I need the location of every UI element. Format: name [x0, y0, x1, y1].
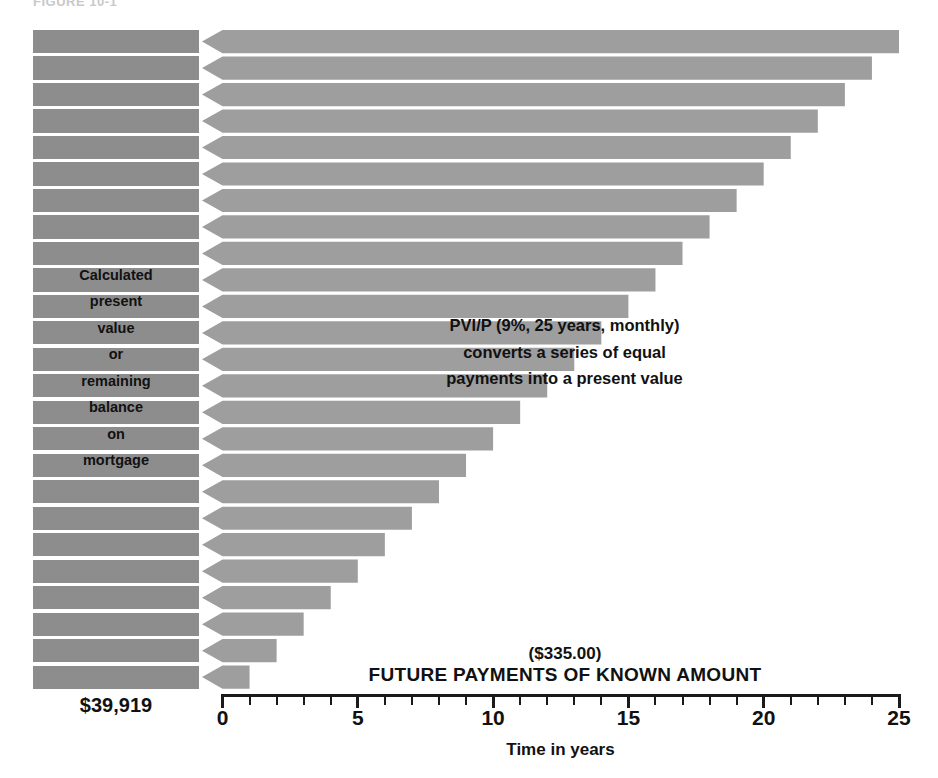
x-axis-tick-label: 0 [217, 706, 229, 730]
x-axis-minor-tick [817, 694, 819, 705]
x-axis-minor-tick [546, 694, 548, 705]
x-axis-tick-label: 25 [887, 706, 910, 730]
x-axis-tick-label: 15 [617, 706, 640, 730]
payment-arrow [202, 136, 791, 159]
payment-arrow [202, 83, 845, 106]
payment-arrow [202, 374, 547, 397]
payment-arrow [202, 560, 358, 583]
x-axis-minor-tick [573, 694, 575, 705]
x-axis-line [222, 694, 899, 697]
payment-arrow [202, 321, 601, 344]
payment-arrow [202, 507, 412, 530]
payment-arrow [202, 427, 493, 450]
payment-arrow [202, 56, 872, 79]
x-axis-minor-tick [411, 694, 413, 705]
payment-arrow [202, 268, 655, 291]
payment-arrows [0, 0, 938, 778]
payment-arrow [202, 401, 520, 424]
payment-arrow [202, 109, 818, 132]
x-axis-minor-tick [303, 694, 305, 705]
x-axis-minor-tick [682, 694, 684, 705]
x-axis-minor-tick [249, 694, 251, 705]
x-axis-minor-tick [736, 694, 738, 705]
x-axis-minor-tick [384, 694, 386, 705]
x-axis-minor-tick [276, 694, 278, 705]
payment-arrow [202, 454, 466, 477]
x-axis-minor-tick [654, 694, 656, 705]
x-axis-tick-label: 5 [352, 706, 364, 730]
x-axis-minor-tick [790, 694, 792, 705]
x-axis-minor-tick [600, 694, 602, 705]
x-axis-minor-tick [871, 694, 873, 705]
payment-arrow [202, 162, 764, 185]
x-axis-minor-tick [844, 694, 846, 705]
x-axis-title: Time in years [222, 740, 899, 760]
payment-arrow [202, 295, 628, 318]
x-axis-minor-tick [465, 694, 467, 705]
payment-arrow [202, 586, 331, 609]
payment-arrow [202, 613, 304, 636]
payment-arrow [202, 348, 574, 371]
x-axis-minor-tick [709, 694, 711, 705]
payment-arrow [202, 30, 899, 53]
payment-arrow [202, 639, 277, 662]
payment-arrow [202, 480, 439, 503]
x-axis-tick-label: 10 [481, 706, 504, 730]
payment-arrow [202, 242, 683, 265]
payment-arrow [202, 533, 385, 556]
x-axis-minor-tick [330, 694, 332, 705]
payment-arrow [202, 215, 710, 238]
chart-plot-area: Calculatedpresentvalueorremainingbalance… [0, 0, 938, 778]
payment-arrow [202, 666, 250, 689]
x-axis-tick-label: 20 [752, 706, 775, 730]
x-axis-minor-tick [438, 694, 440, 705]
x-axis-minor-tick [519, 694, 521, 705]
payment-arrow [202, 189, 737, 212]
